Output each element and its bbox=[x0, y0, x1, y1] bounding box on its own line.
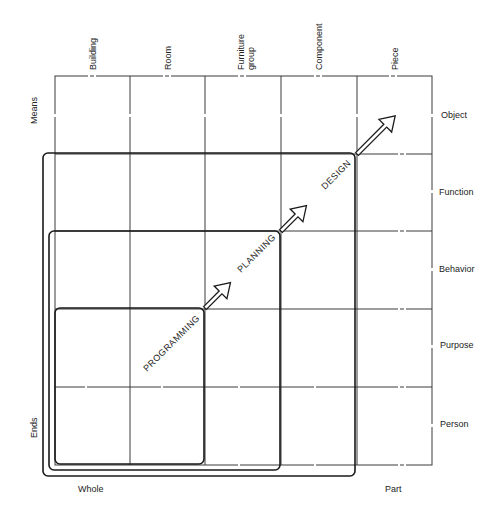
arrow-design-to-object bbox=[351, 109, 402, 160]
axis-label-part: Part bbox=[385, 484, 402, 494]
stage-label-design: DESIGN bbox=[319, 158, 353, 192]
row-label-object: Object bbox=[441, 110, 468, 120]
column-label-component: Component bbox=[314, 23, 324, 70]
column-label-room: Room bbox=[163, 46, 173, 70]
stage-label-programming: PROGRAMMING bbox=[141, 313, 201, 373]
programming-planning-design-diagram: Building Room Furniture group Component … bbox=[0, 0, 499, 518]
axis-label-whole: Whole bbox=[78, 484, 104, 494]
row-label-behavior: Behavior bbox=[439, 264, 475, 274]
column-label-piece: Piece bbox=[390, 47, 400, 70]
column-headers: Building Room Furniture group Component … bbox=[88, 23, 400, 70]
row-labels: Object Function Behavior Purpose Person bbox=[439, 110, 475, 429]
column-label-furniture-line2: group bbox=[246, 47, 256, 70]
row-label-purpose: Purpose bbox=[440, 340, 474, 350]
stage-label-planning: PLANNING bbox=[235, 232, 277, 274]
column-label-furniture-line1: Furniture bbox=[236, 34, 246, 70]
row-label-function: Function bbox=[439, 187, 474, 197]
arrow-planning-to-design bbox=[275, 199, 313, 237]
stage-arrows bbox=[199, 109, 402, 314]
row-label-person: Person bbox=[440, 419, 469, 429]
axis-label-ends: Ends bbox=[29, 417, 39, 438]
column-label-building: Building bbox=[88, 38, 98, 70]
axis-label-means: Means bbox=[29, 96, 39, 124]
scope-boxes bbox=[43, 153, 355, 476]
design-scope-box bbox=[43, 153, 355, 476]
